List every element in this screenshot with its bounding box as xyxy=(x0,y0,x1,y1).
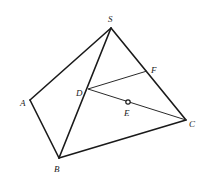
geometry-diagram: SABCDEF xyxy=(0,0,209,182)
segment-sa xyxy=(30,28,111,100)
segment-sc xyxy=(111,28,186,120)
point-marker-e xyxy=(126,100,130,104)
segment-ab xyxy=(30,100,59,158)
points-group xyxy=(126,100,130,104)
segment-bc xyxy=(59,120,186,158)
vertex-label-f: F xyxy=(150,65,157,75)
segment-sb xyxy=(59,28,111,158)
vertex-label-c: C xyxy=(189,119,196,129)
segment-dc xyxy=(88,89,186,120)
vertex-label-d: D xyxy=(75,88,83,98)
edges-group xyxy=(30,28,186,158)
segment-df xyxy=(88,71,147,89)
vertex-label-s: S xyxy=(108,14,113,24)
vertex-label-e: E xyxy=(123,108,130,118)
vertex-label-a: A xyxy=(19,98,26,108)
vertex-label-b: B xyxy=(54,164,60,174)
